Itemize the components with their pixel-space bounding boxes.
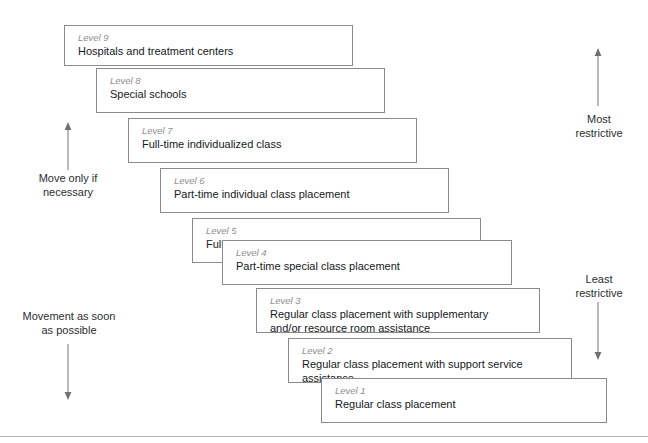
step-box-level-1: Level 1Regular class placement (321, 378, 607, 423)
step-level-label: Level 5 (206, 225, 480, 237)
least-restrictive-arrow (592, 302, 604, 360)
annotation-movement-as-soon-as-possible: Movement as soon as possible (13, 310, 125, 337)
step-level-label: Level 4 (236, 247, 511, 259)
step-box-level-2: Level 2Regular class placement with supp… (288, 338, 572, 383)
step-box-level-6: Level 6Part-time individual class placem… (160, 168, 449, 213)
bottom-divider-rule (0, 436, 648, 437)
step-description: Part-time special class placement (236, 260, 511, 274)
step-level-label: Level 2 (302, 345, 571, 357)
step-level-label: Level 9 (78, 32, 352, 44)
annotation-move-only-if-necessary: Move only if necessary (16, 172, 120, 199)
step-description: Full-time individualized class (142, 138, 416, 152)
step-box-level-3: Level 3Regular class placement with supp… (256, 288, 540, 333)
step-level-label: Level 8 (110, 75, 384, 87)
step-box-level-7: Level 7Full-time individualized class (128, 118, 417, 163)
step-box-level-9: Level 9Hospitals and treatment centers (64, 25, 353, 66)
step-level-label: Level 1 (335, 385, 606, 397)
most-restrictive-arrow (592, 48, 604, 106)
annotation-most-restrictive: Most restrictive (562, 113, 636, 140)
step-box-level-4: Level 4Part-time special class placement (222, 240, 512, 285)
step-description: Part-time individual class placement (174, 188, 448, 202)
step-description: Regular class placement with supplementa… (270, 308, 539, 335)
move-up-arrow (62, 122, 74, 170)
cascade-diagram-canvas: Level 9Hospitals and treatment centersLe… (0, 0, 648, 443)
step-level-label: Level 6 (174, 175, 448, 187)
annotation-least-restrictive: Least restrictive (562, 273, 636, 300)
step-description: Hospitals and treatment centers (78, 45, 352, 59)
step-level-label: Level 3 (270, 295, 539, 307)
step-description: Special schools (110, 88, 384, 102)
step-box-level-8: Level 8Special schools (96, 68, 385, 113)
step-level-label: Level 7 (142, 125, 416, 137)
move-down-arrow (62, 344, 74, 400)
step-description: Regular class placement (335, 398, 606, 412)
